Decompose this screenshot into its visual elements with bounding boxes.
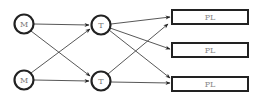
network-diagram: M M T T PL PL PL [0, 0, 262, 100]
edge-t2-pl3 [111, 82, 170, 83]
edge-m2-t1 [31, 29, 90, 73]
edges-t-to-pl [108, 17, 170, 83]
node-pl2: PL [172, 43, 248, 57]
pl1-label: PL [205, 13, 216, 22]
edge-m2-t2 [34, 80, 89, 81]
edge-t1-pl2 [110, 28, 170, 49]
edge-t2-pl1 [108, 24, 168, 74]
edge-t1-pl1 [111, 17, 170, 24]
m1-label: M [20, 20, 28, 29]
t2-label: T [98, 77, 104, 86]
edge-m1-t1 [34, 24, 89, 25]
node-t2: T [92, 72, 111, 91]
m2-label: M [20, 76, 28, 85]
node-m2: M [15, 71, 34, 90]
node-pl3: PL [172, 77, 248, 91]
pl3-label: PL [205, 80, 216, 89]
edge-t1-pl3 [109, 30, 170, 78]
edge-m1-t2 [31, 31, 90, 76]
node-t1: T [92, 16, 111, 35]
node-m1: M [15, 15, 34, 34]
pl2-label: PL [205, 46, 216, 55]
edges-m-to-t [31, 24, 90, 81]
t1-label: T [98, 21, 104, 30]
node-pl1: PL [172, 10, 248, 24]
